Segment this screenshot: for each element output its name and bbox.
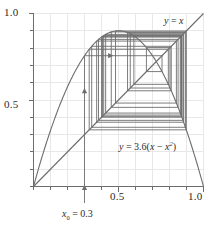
x-axis-tick-label-right: 1.0 — [188, 190, 202, 202]
cobweb-arrow-right — [108, 53, 113, 58]
cobweb-diagram-figure: 1.0 0.5 0.5 1.0 y = x y = 3.6(x − x2) x0… — [0, 0, 223, 229]
x-axis-tick-label-mid: 0.5 — [110, 190, 124, 202]
initial-value-equals: = — [72, 208, 78, 219]
identity-label-rhs: x — [179, 15, 183, 26]
y-axis-tick-label-top: 1.0 — [4, 6, 18, 18]
parabola-label-coefficient: 3.6 — [134, 141, 147, 152]
parabola-label-lhs: y — [119, 141, 123, 152]
parabola-label-equals: = — [126, 141, 132, 152]
initial-value-subscript: 0 — [66, 214, 69, 221]
parabola-equation-label: y = 3.6(x − x2) — [119, 140, 176, 152]
identity-label-equals: = — [171, 15, 177, 26]
identity-line-label: y = x — [164, 15, 184, 26]
initial-value-number: 0.3 — [80, 208, 93, 219]
cobweb-arrow-up — [82, 88, 87, 93]
direction-arrows — [82, 53, 113, 202]
initial-value-label: x0 = 0.3 — [62, 208, 93, 221]
parabola-label-minus: − — [157, 141, 163, 152]
parabola-label-close-paren: ) — [173, 141, 176, 152]
identity-label-lhs: y — [164, 15, 168, 26]
parabola-label-term1: x — [150, 141, 154, 152]
y-axis-tick-label-mid: 0.5 — [4, 98, 18, 110]
